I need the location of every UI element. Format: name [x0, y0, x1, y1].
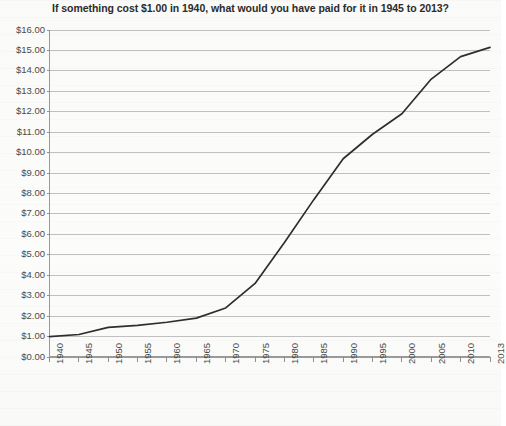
x-tick-label: 1995: [377, 343, 388, 364]
x-tick-label: 1940: [54, 343, 65, 364]
x-tick-label: 1955: [142, 343, 153, 364]
x-tick-label: 2010: [465, 343, 476, 364]
x-tick-label: 2000: [406, 343, 417, 364]
x-tick-label: 2005: [436, 343, 447, 364]
x-tick-label: 1945: [83, 343, 94, 364]
x-tick-label: 1975: [260, 343, 271, 364]
x-tick-label: 1970: [230, 343, 241, 364]
x-tick-label: 1980: [289, 343, 300, 364]
x-tick-label: 1985: [318, 343, 329, 364]
x-tick-label: 1990: [348, 343, 359, 364]
x-tick-label: 2013: [495, 343, 506, 364]
x-tick-label: 1950: [113, 343, 124, 364]
x-tick-label: 1965: [201, 343, 212, 364]
x-tick-label: 1960: [171, 343, 182, 364]
